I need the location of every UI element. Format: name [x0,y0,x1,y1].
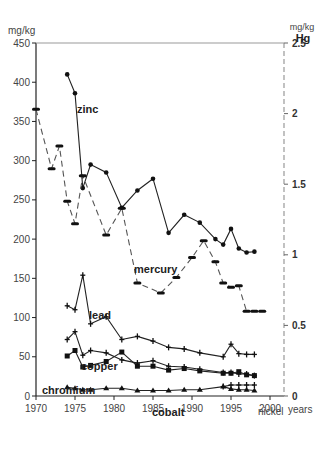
y-tick-label: 100 [13,312,30,323]
marker-dash [55,145,63,148]
marker-dash [48,167,56,170]
y2-axis-element: Hg [296,32,311,44]
marker-square [236,369,241,374]
y2-tick-label: 0.5 [292,320,306,331]
marker-dot [213,237,218,242]
marker-square [197,368,202,373]
marker-square [182,366,187,371]
marker-square [229,371,234,376]
y2-tick-label: 2 [292,108,298,119]
marker-square [244,372,249,377]
marker-dash [63,200,71,203]
series-mercury [32,108,266,313]
marker-dot [237,246,242,251]
marker-dot [135,188,140,193]
series-line [67,74,254,252]
series-line [67,387,254,391]
marker-dot [198,220,203,225]
axes: 0501001502002503003504004501970197519801… [13,38,306,415]
y2-axis-unit: mg/kg [290,22,315,32]
marker-dash [200,239,208,242]
label-cobalt: cobalt [152,406,185,418]
y-tick-label: 200 [13,234,30,245]
y-tick-label: 400 [13,77,30,88]
marker-dash [250,310,258,313]
label-lead: lead [89,309,111,321]
marker-dash [172,276,180,279]
marker-square [73,348,78,353]
y2-tick-label: 0 [292,391,298,402]
y-tick-label: 300 [13,155,30,166]
marker-dot [73,91,78,96]
heavy-metals-line-chart: 0501001502002503003504004501970197519801… [0,0,323,456]
y-tick-label: 250 [13,194,30,205]
marker-square [252,373,257,378]
marker-dash [157,291,165,294]
y-tick-label: 350 [13,116,30,127]
label-zinc: zinc [77,103,98,115]
marker-dash [211,260,219,263]
marker-dash [243,310,251,313]
marker-dash [118,207,126,210]
marker-dash [71,222,79,225]
chart-canvas: 0501001502002503003504004501970197519801… [0,0,323,456]
marker-dot [65,72,70,77]
y2-tick-label: 1 [292,249,298,260]
marker-square [221,371,226,376]
label-mercury: mercury [134,263,178,275]
marker-square [65,353,70,358]
marker-dot [166,231,171,236]
marker-square [119,350,124,355]
marker-dot [104,170,109,175]
marker-dot [229,227,234,232]
y-tick-label: 450 [13,38,30,49]
y-tick-label: 150 [13,273,30,284]
x-tick-label: 1970 [25,403,48,414]
series-zinc [65,72,257,255]
series-lines [32,72,266,392]
marker-square [166,368,171,373]
x-tick-label: 1980 [103,403,126,414]
marker-dot [151,176,156,181]
marker-dash [235,284,243,287]
marker-dash [79,174,87,177]
x-tick-label: 1995 [220,403,243,414]
marker-dash [133,282,141,285]
marker-dot [182,212,187,217]
marker-dash [102,234,110,237]
marker-dash [227,286,235,289]
marker-dot [221,242,226,247]
label-nickel: nickel [258,406,284,417]
x-tick-label: 1975 [64,403,87,414]
marker-square [151,364,156,369]
marker-dash [188,256,196,259]
y-axis-unit: mg/kg [8,25,35,36]
y-tick-label: 50 [19,351,31,362]
series-line [36,109,262,311]
marker-dash [32,108,40,111]
marker-dash [258,310,266,313]
marker-dot [88,162,93,167]
label-chromium: chromium [42,384,95,396]
y-tick-label: 0 [24,391,30,402]
marker-dash [219,282,227,285]
y2-tick-label: 1.5 [292,179,306,190]
label-copper: copper [81,360,118,372]
marker-dot [244,250,249,255]
marker-dot [252,249,257,254]
x-axis-unit: years [288,404,312,415]
marker-square [135,364,140,369]
